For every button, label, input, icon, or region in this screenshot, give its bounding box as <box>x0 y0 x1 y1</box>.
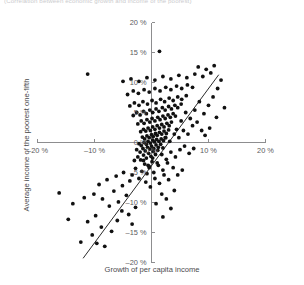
data-point <box>90 233 94 237</box>
data-point <box>57 191 61 195</box>
data-point <box>169 77 173 81</box>
data-point <box>187 151 191 155</box>
data-point <box>178 148 182 152</box>
data-point <box>135 148 139 152</box>
x-tick-label: –10 % <box>84 146 105 155</box>
data-point <box>142 159 146 163</box>
data-point <box>167 128 171 132</box>
data-point <box>176 106 180 110</box>
data-point <box>148 129 152 133</box>
data-point <box>183 144 187 148</box>
data-point <box>79 240 83 244</box>
data-point <box>163 108 167 112</box>
data-point <box>168 115 172 119</box>
data-point <box>161 215 165 219</box>
data-point <box>122 171 126 175</box>
data-point <box>171 99 175 103</box>
data-point <box>148 185 152 189</box>
data-point <box>167 124 171 128</box>
data-point <box>99 225 103 229</box>
data-point <box>211 95 215 99</box>
data-point <box>133 101 137 105</box>
data-point <box>196 65 200 69</box>
data-point <box>107 204 111 208</box>
data-point <box>180 87 184 91</box>
data-point <box>188 117 192 121</box>
data-point <box>71 202 75 206</box>
data-point <box>204 67 208 71</box>
data-point <box>215 115 219 119</box>
data-point <box>148 141 152 145</box>
data-point <box>154 101 158 105</box>
data-point <box>105 178 109 182</box>
data-point <box>142 121 146 125</box>
data-point <box>128 179 132 183</box>
data-point <box>152 171 156 175</box>
data-point <box>164 132 168 136</box>
data-point <box>154 202 158 206</box>
data-point <box>223 106 227 110</box>
y-tick-label: 20 % <box>130 18 147 27</box>
data-point <box>169 207 173 211</box>
data-point <box>94 214 98 218</box>
data-point <box>160 192 164 196</box>
data-point <box>86 72 90 76</box>
scatter-plot: –20 %–10 %0 %10 %20 %–20 %–15 %–10 %–5 %… <box>0 0 304 285</box>
data-point <box>212 64 216 68</box>
data-point <box>158 118 162 122</box>
data-point <box>136 91 140 95</box>
data-point <box>110 229 114 233</box>
data-point <box>138 150 142 154</box>
data-point <box>160 132 164 136</box>
data-point <box>186 132 190 136</box>
data-point <box>163 100 167 104</box>
y-tick-label: 5 % <box>134 108 147 117</box>
data-point <box>142 88 146 92</box>
data-point <box>170 120 174 124</box>
data-point <box>141 100 145 104</box>
data-point <box>176 173 180 177</box>
data-point <box>136 155 140 159</box>
data-point <box>147 90 151 94</box>
data-point <box>203 133 207 137</box>
y-tick-label: –5 % <box>130 168 147 177</box>
data-point <box>133 159 137 163</box>
data-point <box>177 73 181 77</box>
data-point <box>161 146 165 150</box>
data-point <box>153 87 157 91</box>
data-point <box>209 71 213 75</box>
data-point <box>179 119 183 123</box>
data-point <box>175 84 179 88</box>
data-point <box>179 102 183 106</box>
data-point <box>158 89 162 93</box>
data-point <box>66 217 70 221</box>
data-point <box>192 147 196 151</box>
data-point <box>125 193 129 197</box>
data-point <box>166 161 170 165</box>
data-point <box>167 178 171 182</box>
data-point <box>200 129 204 133</box>
data-point <box>207 103 211 107</box>
data-point <box>144 129 148 133</box>
data-point <box>162 173 166 177</box>
data-point <box>195 120 199 124</box>
data-point <box>197 100 201 104</box>
data-point <box>201 75 205 79</box>
data-point <box>150 160 154 164</box>
data-point <box>163 136 167 140</box>
data-point <box>153 177 157 181</box>
data-point <box>162 125 166 129</box>
data-point <box>219 78 223 82</box>
y-tick-label: 0 % <box>134 138 147 147</box>
data-point <box>153 127 157 131</box>
data-point <box>164 157 168 161</box>
data-point <box>147 166 151 170</box>
data-point <box>114 174 118 178</box>
data-point <box>184 111 188 115</box>
data-point <box>115 219 119 223</box>
data-point <box>112 189 116 193</box>
data-point <box>128 104 132 108</box>
data-point <box>163 117 167 121</box>
data-point <box>164 85 168 89</box>
data-point <box>137 103 141 107</box>
